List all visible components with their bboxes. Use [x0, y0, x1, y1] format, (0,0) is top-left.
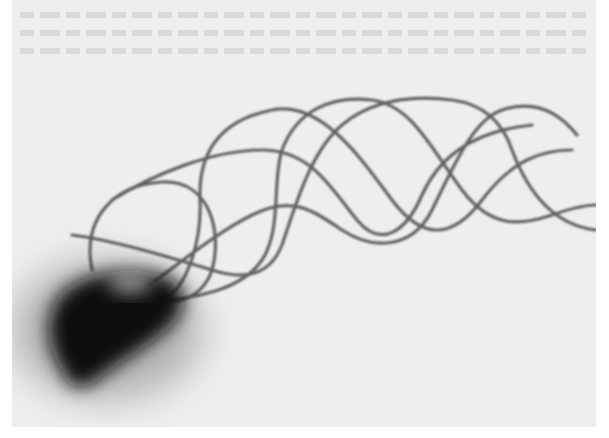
filament-2	[152, 99, 596, 300]
micrograph-image	[12, 0, 596, 427]
micrograph-plate	[12, 0, 596, 427]
filament-4	[72, 98, 596, 275]
filament-3	[142, 106, 577, 290]
filament-1	[162, 109, 572, 300]
